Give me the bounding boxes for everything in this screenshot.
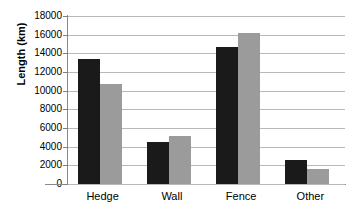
y-axis-tick-mark [63, 35, 68, 36]
bar-other-series-a [285, 160, 307, 184]
bar-hedge-series-a [78, 59, 100, 184]
y-axis-tick-mark [63, 109, 68, 110]
y-axis-tick-mark [63, 16, 68, 17]
y-axis-tick-mark [63, 165, 68, 166]
y-axis-tick-mark [63, 72, 68, 73]
plot-area [68, 16, 345, 184]
x-axis-label-other: Other [276, 190, 345, 202]
bar-fence-series-b [238, 33, 260, 184]
bar-hedge-series-b [100, 84, 122, 184]
y-axis-tick-label: 10000 [26, 86, 62, 96]
gridline [68, 72, 345, 73]
y-axis-tick-labels: 0200040006000800010000120001400016000180… [26, 16, 62, 184]
x-axis-category-labels: HedgeWallFenceOther [68, 190, 345, 210]
y-axis-tick-mark [63, 147, 68, 148]
bar-other-series-b [307, 169, 329, 184]
x-axis-label-hedge: Hedge [68, 190, 137, 202]
gridline [68, 184, 345, 185]
bar-wall-series-a [147, 142, 169, 184]
y-axis-tick-label: 16000 [26, 30, 62, 40]
y-axis-tick-label: 8000 [26, 104, 62, 114]
y-axis-tick-label: 4000 [26, 142, 62, 152]
y-axis-tick-mark [63, 53, 68, 54]
bar-fence-series-a [216, 47, 238, 184]
gridline [68, 35, 345, 36]
y-axis-tick-label: 18000 [26, 11, 62, 21]
x-axis-label-wall: Wall [137, 190, 206, 202]
y-axis-tick-label: 2000 [26, 160, 62, 170]
y-axis-tick-label: 6000 [26, 123, 62, 133]
x-axis-label-fence: Fence [207, 190, 276, 202]
bar-wall-series-b [169, 136, 191, 184]
gridline [68, 53, 345, 54]
y-axis-tick-label: 12000 [26, 67, 62, 77]
gridline [68, 16, 345, 17]
y-axis-tick-mark [63, 91, 68, 92]
y-axis-tick-mark [63, 184, 68, 185]
y-axis-tick-label: 14000 [26, 48, 62, 58]
bar-chart: Length (km) 0200040006000800010000120001… [0, 0, 353, 219]
y-axis-tick-mark [63, 128, 68, 129]
